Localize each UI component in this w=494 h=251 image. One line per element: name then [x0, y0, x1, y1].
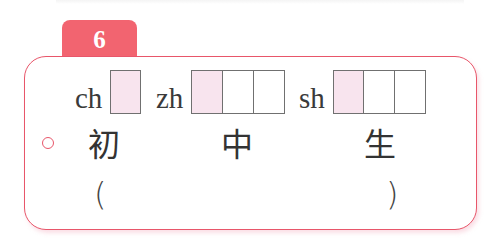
- pinyin-initial-zh: zh: [156, 84, 183, 113]
- character-chu: 初: [88, 129, 120, 161]
- pinyin-initial-ch: ch: [75, 84, 102, 113]
- pinyin-box-zh-3[interactable]: [253, 70, 285, 114]
- pinyin-box-zh-2[interactable]: [222, 70, 254, 114]
- pinyin-box-sh-2[interactable]: [363, 70, 395, 114]
- pinyin-initial-sh: sh: [299, 84, 325, 113]
- top-divider: [56, 0, 464, 4]
- answer-close-paren: ): [386, 178, 398, 210]
- exercise-number-tab: 6: [62, 20, 137, 57]
- pinyin-box-ch-1[interactable]: [110, 70, 141, 114]
- pinyin-box-zh-1[interactable]: [191, 70, 223, 114]
- character-sheng: 生: [364, 129, 396, 161]
- circle-bullet-icon: [42, 137, 54, 149]
- character-zhong: 中: [221, 129, 253, 161]
- pinyin-box-sh-1[interactable]: [333, 70, 364, 114]
- answer-open-paren: (: [94, 178, 106, 210]
- pinyin-box-sh-3[interactable]: [394, 70, 426, 114]
- exercise-number: 6: [93, 27, 106, 52]
